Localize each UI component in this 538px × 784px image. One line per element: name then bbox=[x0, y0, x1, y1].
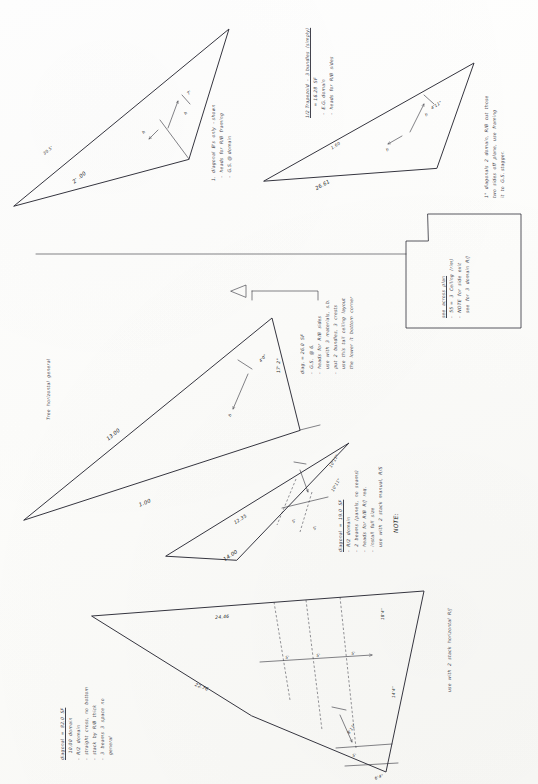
panel-annotation-line-2: - NOTE for side exit bbox=[457, 263, 463, 318]
panel-annotation-header: see across plan bbox=[441, 276, 447, 318]
bt-annotation-line-2: - R/2 domain bbox=[76, 725, 82, 760]
bt-top-dim: 24.46 bbox=[215, 614, 230, 621]
mid-annotation-line-3: use with 3 materials, s.b. bbox=[325, 299, 331, 374]
tl-annotation-line-3: - G.S. @ domain bbox=[227, 136, 233, 181]
sketch-ink-layer: .ln { fill:none; stroke:#2f2f38; stroke-… bbox=[0, 0, 538, 784]
bt-annotation-line-5: - 3 beams 3 space no bbox=[100, 698, 106, 760]
bt-annotation-line-4: - stack by R/B thick bbox=[92, 705, 98, 760]
sketch-sheet: .ln { fill:none; stroke:#2f2f38; stroke-… bbox=[0, 0, 538, 784]
tr-right-note-line-3: it to G.S. stagger. bbox=[500, 151, 506, 198]
tl-annotation-line-1: 1. diagonal B's only - shown bbox=[211, 104, 217, 181]
note-marker: NOTE: bbox=[392, 513, 400, 533]
lm-annotation-line-3: - heads for R/B R/J req. bbox=[362, 487, 368, 552]
bt-tick-3: 5' bbox=[351, 651, 356, 657]
bt-annotation-line-1: 10.00 domain bbox=[68, 717, 74, 760]
tr-annotation-line-1: = 16.28 SF bbox=[313, 77, 319, 118]
lm-annotation-line-4: - install full size bbox=[370, 507, 376, 552]
bt-annotation-line-6: general bbox=[108, 736, 114, 760]
mid-top-label: diag. = 26.0 SF bbox=[300, 334, 306, 374]
mid-annotation-line-1: - G.S. @ 6. bbox=[309, 344, 315, 374]
tr-annotation-header: 1/2 Trapezoid - 3 bundles (simply) bbox=[305, 28, 311, 118]
panel-annotation-line-1: - 55 = 3 Ceiling (rim) bbox=[449, 258, 455, 318]
mid-annotation-line-6: the lower it bottom corner bbox=[349, 297, 355, 374]
mid-annotation-line-4: - put 2 bundles, 3 crests bbox=[333, 305, 339, 374]
bt-tick-2: 5' bbox=[316, 653, 321, 659]
horizontal-general-label: Tree horizontal general bbox=[46, 359, 52, 420]
bottom-large-triangle-geometry bbox=[92, 591, 424, 772]
bt-tick-4: 5' bbox=[352, 753, 357, 759]
bt-right-dim-2: 14'4" bbox=[391, 686, 396, 698]
lm-annotation-header: diagonal = 19.0 SF bbox=[338, 500, 344, 552]
bt-annotation-line-3: - straight cross, no bottom bbox=[84, 687, 90, 760]
bt-tick-1: 5' bbox=[285, 655, 290, 661]
lm-annotation-line-2: - 2 beams (panels, no seams) bbox=[354, 470, 360, 552]
lower-middle-triangle-geometry bbox=[166, 443, 349, 560]
mid-annotation-line-2: - heads for R/B sides bbox=[317, 316, 323, 374]
lm-annotation-line-5: use with 2 stack manual, R/S bbox=[378, 467, 384, 553]
tr-annotation-line-3: - heads for R/B sides bbox=[329, 56, 335, 118]
top-left-triangle-geometry bbox=[14, 29, 229, 206]
middle-large-triangle-geometry bbox=[24, 285, 320, 520]
lm-annotation-line-1: - R/2 domain bbox=[346, 517, 352, 552]
mid-angle: 17' 2" bbox=[276, 358, 282, 373]
bt-annotation-header: diagonal = 82.0 SF bbox=[60, 708, 66, 760]
tr-annotation-line-2: - E.G. domain bbox=[321, 79, 327, 118]
tr-right-note-line-1: 1" diagonals 2 domain, R/B cut those bbox=[484, 95, 490, 198]
top-right-triangle-geometry bbox=[264, 63, 474, 181]
panel-annotation-line-3: see for 3 domain R/J bbox=[465, 256, 471, 318]
bt-side-note: use with 2 stack horizontal R/J bbox=[447, 608, 453, 692]
tl-annotation-line-2: - heads for R/B framing bbox=[219, 113, 225, 181]
mid-annotation-line-5: use this tail ceiling layout bbox=[341, 298, 347, 374]
tr-right-note-line-2: two sides off plane, use framing bbox=[492, 110, 498, 198]
bt-right-dim: 18'4" bbox=[380, 608, 385, 620]
